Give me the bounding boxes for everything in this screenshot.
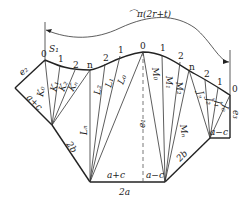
label-2a: 2a (118, 187, 130, 197)
edge-2b-right (165, 138, 210, 182)
svg-text:M₁: M₁ (164, 75, 174, 89)
svg-text:0: 0 (41, 49, 47, 59)
label-bottom-a-plus-c: a+c (107, 170, 125, 180)
svg-text:2: 2 (73, 60, 79, 70)
svg-text:1: 1 (217, 77, 223, 87)
svg-text:Lₙ: Lₙ (79, 125, 89, 136)
svg-text:0: 0 (140, 41, 146, 51)
svg-text:1: 1 (160, 43, 166, 53)
arrow-left-icon (46, 29, 52, 33)
svg-text:1: 1 (118, 45, 124, 55)
svg-text:2: 2 (178, 51, 184, 61)
svg-text:2: 2 (103, 53, 109, 63)
dimension-arc (46, 18, 229, 63)
dimension-label: ⌒π(2r+t) (128, 9, 172, 19)
arrow-right-icon (223, 59, 229, 64)
svg-text:M₀: M₀ (150, 66, 162, 82)
label-e3: e₃ (231, 110, 241, 119)
svg-text:0: 0 (232, 84, 238, 94)
start-label-s1: S₁ (49, 44, 59, 54)
label-a-minus-c-right: a−c (210, 127, 228, 137)
label-2b-right: 2b (174, 148, 190, 164)
l-fan (90, 52, 143, 182)
svg-text:L₁: L₁ (103, 77, 115, 90)
svg-text:n: n (87, 60, 93, 70)
development-diagram: ⌒π(2r+t) (0, 0, 250, 205)
svg-text:M₂: M₂ (174, 80, 185, 95)
svg-text:Mₙ: Mₙ (178, 123, 190, 139)
label-e1: e₁ (137, 119, 147, 128)
svg-text:Kₙ: Kₙ (66, 79, 81, 94)
svg-text:L₂: L₂ (92, 84, 103, 96)
svg-text:L₀: L₀ (115, 73, 128, 87)
label-bottom-a-minus-c: a−c (146, 170, 164, 180)
label-2b-left: 2b (64, 139, 79, 155)
svg-text:1: 1 (58, 54, 64, 64)
svg-text:n: n (189, 62, 195, 72)
svg-text:2: 2 (204, 69, 210, 79)
